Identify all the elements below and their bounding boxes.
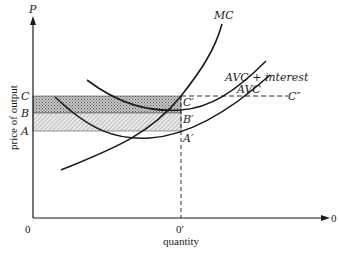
price-level-b: B <box>20 107 29 120</box>
x-axis-label: quantity <box>163 235 200 247</box>
curve-label-mc: MC <box>213 9 234 22</box>
cost-curves-diagram: P price of output C B A C′ B′ A′ MC AVC … <box>0 0 340 255</box>
y-axis-label: price of output <box>7 85 19 150</box>
origin-label: 0 <box>25 223 31 235</box>
y-axis-symbol: P <box>28 3 37 16</box>
shaded-area-b-a <box>33 113 181 131</box>
x-axis-arrow-icon <box>321 215 330 221</box>
y-axis-arrow-icon <box>30 16 36 25</box>
price-level-c: C <box>21 90 30 103</box>
point-a-prime: A′ <box>182 132 194 145</box>
point-b-prime: B′ <box>182 113 194 126</box>
x-axis-end-label: 0 <box>331 212 337 224</box>
point-c-prime: C′ <box>183 96 194 109</box>
x-tick-o-prime: 0′ <box>176 223 184 235</box>
curve-label-avc: AVC <box>236 83 261 96</box>
extension-label-c-double-prime: C″ <box>288 90 301 103</box>
price-level-a: A <box>20 125 29 138</box>
